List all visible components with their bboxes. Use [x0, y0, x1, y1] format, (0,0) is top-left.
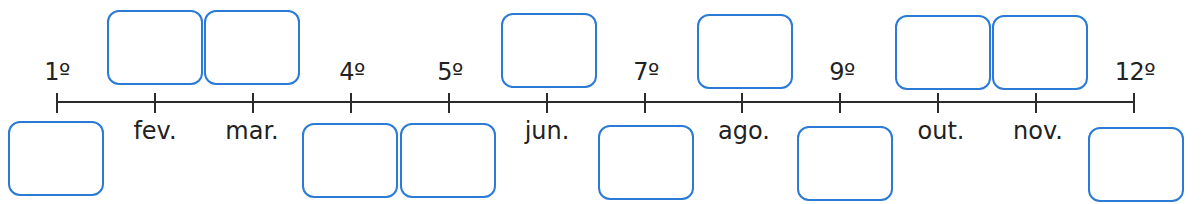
timeline-tick: [154, 93, 156, 113]
ordinal-label: 5º: [437, 58, 463, 86]
answer-box-bottom[interactable]: [400, 123, 496, 198]
ordinal-label: 4º: [339, 58, 365, 86]
timeline-tick: [741, 93, 743, 113]
answer-box-top[interactable]: [992, 15, 1088, 90]
month-label: mar.: [225, 117, 278, 145]
answer-box-bottom[interactable]: [598, 125, 694, 200]
answer-box-top[interactable]: [107, 10, 203, 85]
answer-box-top[interactable]: [501, 13, 597, 88]
answer-box-bottom[interactable]: [797, 126, 893, 201]
timeline-tick: [644, 93, 646, 113]
timeline-tick: [937, 93, 939, 113]
answer-box-top[interactable]: [895, 15, 991, 90]
timeline-tick: [448, 93, 450, 113]
answer-box-top[interactable]: [204, 10, 300, 85]
month-label: out.: [918, 117, 965, 145]
timeline-tick: [1133, 93, 1135, 113]
month-label: nov.: [1013, 117, 1063, 145]
ordinal-label: 7º: [633, 58, 659, 86]
answer-box-bottom[interactable]: [8, 121, 104, 196]
month-label: jun.: [525, 117, 570, 145]
ordinal-label: 12º: [1115, 58, 1155, 86]
timeline-tick: [839, 93, 841, 113]
timeline-tick: [56, 93, 58, 113]
timeline-tick: [350, 93, 352, 113]
month-label: fev.: [133, 117, 176, 145]
month-label: ago.: [718, 117, 770, 145]
answer-box-bottom[interactable]: [1088, 127, 1184, 202]
answer-box-top[interactable]: [697, 14, 793, 89]
timeline-axis-line: [57, 101, 1135, 103]
timeline-tick: [1035, 93, 1037, 113]
ordinal-label: 1º: [44, 58, 70, 86]
timeline-tick: [252, 93, 254, 113]
ordinal-label: 9º: [829, 58, 855, 86]
answer-box-bottom[interactable]: [302, 123, 398, 198]
timeline-tick: [546, 93, 548, 113]
